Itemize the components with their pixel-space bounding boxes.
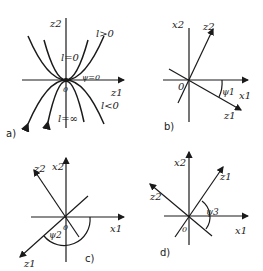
label-l-negative: l<0 bbox=[101, 100, 120, 111]
label-z1: z1 bbox=[219, 171, 232, 182]
label-z1: z1 bbox=[23, 258, 36, 269]
label-psi1: ψ1 bbox=[222, 87, 235, 97]
label-z2: z2 bbox=[33, 163, 46, 174]
label-l-positive: l>0 bbox=[96, 28, 115, 39]
panel-d: x2 z1 z2 x1 0 ψ3 d) bbox=[149, 152, 248, 258]
label-x1: x1 bbox=[239, 90, 251, 101]
label-z2: z2 bbox=[49, 18, 62, 29]
line-z2 bbox=[34, 170, 79, 237]
caption-c: c) bbox=[85, 253, 94, 264]
label-psi3: ψ3 bbox=[206, 207, 219, 217]
label-x1: x1 bbox=[235, 225, 247, 236]
label-x2: x2 bbox=[52, 161, 64, 172]
label-l-zero: l=0 bbox=[61, 52, 80, 63]
label-z1: z1 bbox=[110, 87, 123, 98]
panel-a: z2 z1 0 l=0 l>0 l<0 l=∞ ψ=0 a) bbox=[6, 18, 124, 139]
caption-b: b) bbox=[164, 121, 174, 132]
label-psi-zero: ψ=0 bbox=[82, 73, 100, 82]
label-psi2: ψ2 bbox=[49, 230, 62, 240]
origin-label: 0 bbox=[178, 81, 185, 92]
label-z2: z2 bbox=[149, 191, 162, 202]
label-l-infinity: l=∞ bbox=[58, 113, 78, 124]
origin-point bbox=[64, 78, 68, 82]
origin-label: 0 bbox=[63, 85, 68, 94]
line-z1 bbox=[20, 196, 88, 257]
caption-a: a) bbox=[6, 128, 16, 139]
panel-b: x2 z2 x1 z1 0 ψ1 b) bbox=[163, 19, 251, 132]
origin-label: 0 bbox=[182, 225, 187, 234]
origin-label: 0 bbox=[63, 223, 68, 232]
label-z2: z2 bbox=[202, 21, 215, 32]
caption-d: d) bbox=[160, 247, 170, 258]
label-z1: z1 bbox=[223, 110, 236, 121]
phase-portrait-figure: z2 z1 0 l=0 l>0 l<0 l=∞ ψ=0 a) x2 z2 x1 … bbox=[0, 0, 263, 271]
panel-c: z2 x2 x1 z1 0 ψ2 c) bbox=[20, 158, 124, 269]
label-x1: x1 bbox=[110, 223, 122, 234]
label-x2: x2 bbox=[174, 157, 186, 168]
label-x2: x2 bbox=[172, 19, 184, 30]
